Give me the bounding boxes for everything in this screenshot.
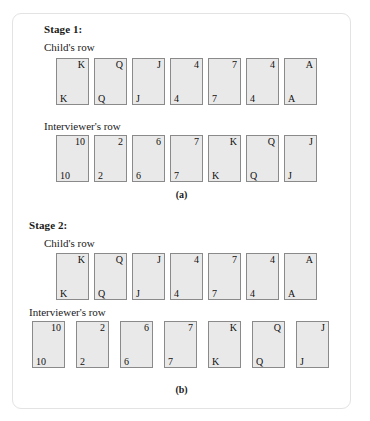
- card-rank-bottom: K: [60, 288, 67, 299]
- card[interactable]: J J: [284, 135, 317, 182]
- card-rank-bottom: 7: [212, 288, 217, 299]
- card-rank-bottom: Q: [98, 93, 105, 104]
- card-rank-bottom: 4: [250, 288, 255, 299]
- card-rank-top: K: [230, 136, 237, 147]
- card-rank-bottom: 4: [174, 288, 179, 299]
- card-rank-top: Q: [116, 254, 123, 265]
- card[interactable]: 2 2: [76, 321, 109, 368]
- child-row-cards-1: K K Q Q J J 4 4 7 7 4 4: [56, 58, 317, 105]
- card-rank-bottom: 2: [98, 170, 103, 181]
- card[interactable]: A A: [284, 58, 317, 105]
- card-rank-top: 10: [51, 322, 61, 333]
- card[interactable]: J J: [296, 321, 329, 368]
- card-rank-top: Q: [116, 59, 123, 70]
- interviewer-row-label-1: Interviewer's row: [44, 120, 121, 132]
- card[interactable]: J J: [132, 58, 165, 105]
- card[interactable]: 7 7: [208, 58, 241, 105]
- card[interactable]: 4 4: [170, 253, 203, 300]
- card-rank-bottom: A: [288, 93, 295, 104]
- card[interactable]: K K: [56, 58, 89, 105]
- card[interactable]: Q Q: [94, 253, 127, 300]
- card-rank-top: K: [230, 322, 237, 333]
- card-rank-top: K: [78, 59, 85, 70]
- card[interactable]: K K: [208, 321, 241, 368]
- card-rank-bottom: 6: [124, 356, 129, 367]
- card[interactable]: 7 7: [208, 253, 241, 300]
- card[interactable]: A A: [284, 253, 317, 300]
- card-rank-bottom: J: [136, 93, 140, 104]
- card-rank-bottom: Q: [250, 170, 257, 181]
- card-rank-top: J: [309, 136, 313, 147]
- card[interactable]: 2 2: [94, 135, 127, 182]
- card-rank-top: 7: [232, 254, 237, 265]
- panel-caption-a: (a): [13, 189, 350, 200]
- interviewer-row-cards-2: 10 10 2 2 6 6 7 7 K K Q Q: [32, 321, 329, 368]
- card-rank-top: 2: [100, 322, 105, 333]
- card-rank-bottom: J: [300, 356, 304, 367]
- card-rank-top: Q: [268, 136, 275, 147]
- card-rank-top: 6: [156, 136, 161, 147]
- card[interactable]: 6 6: [120, 321, 153, 368]
- card[interactable]: 7 7: [164, 321, 197, 368]
- card-rank-bottom: J: [288, 170, 292, 181]
- card-rank-bottom: 4: [174, 93, 179, 104]
- card[interactable]: K K: [56, 253, 89, 300]
- card-rank-top: J: [157, 59, 161, 70]
- card-rank-top: 4: [270, 59, 275, 70]
- card-rank-bottom: Q: [256, 356, 263, 367]
- card[interactable]: J J: [132, 253, 165, 300]
- card-rank-bottom: 7: [212, 93, 217, 104]
- card-rank-bottom: 7: [174, 170, 179, 181]
- card-rank-bottom: K: [212, 356, 219, 367]
- card[interactable]: Q Q: [252, 321, 285, 368]
- card-rank-top: 7: [188, 322, 193, 333]
- card-rank-top: J: [157, 254, 161, 265]
- card-rank-top: 4: [270, 254, 275, 265]
- interviewer-row-label-2: Interviewer's row: [29, 306, 106, 318]
- card[interactable]: 4 4: [170, 58, 203, 105]
- card-rank-bottom: 6: [136, 170, 141, 181]
- child-row-label-1: Child's row: [44, 41, 95, 53]
- card[interactable]: Q Q: [246, 135, 279, 182]
- card-rank-top: J: [321, 322, 325, 333]
- card-rank-bottom: K: [60, 93, 67, 104]
- card-rank-top: A: [306, 59, 313, 70]
- card-rank-top: 7: [194, 136, 199, 147]
- card-rank-bottom: 7: [168, 356, 173, 367]
- card[interactable]: 10 10: [56, 135, 89, 182]
- interviewer-row-cards-1: 10 10 2 2 6 6 7 7 K K Q Q: [56, 135, 317, 182]
- card-rank-top: 6: [144, 322, 149, 333]
- card-rank-top: 10: [75, 136, 85, 147]
- card-rank-top: K: [78, 254, 85, 265]
- card-rank-bottom: A: [288, 288, 295, 299]
- figure-frame: Stage 1: Child's row K K Q Q J J 4 4 7 7: [12, 13, 351, 409]
- card-rank-top: 4: [194, 254, 199, 265]
- card[interactable]: 4 4: [246, 58, 279, 105]
- card-rank-bottom: 10: [36, 356, 46, 367]
- card-rank-bottom: J: [136, 288, 140, 299]
- card-rank-bottom: 4: [250, 93, 255, 104]
- card[interactable]: 7 7: [170, 135, 203, 182]
- card[interactable]: K K: [208, 135, 241, 182]
- panel-caption-b: (b): [13, 384, 350, 395]
- card[interactable]: 10 10: [32, 321, 65, 368]
- card[interactable]: 6 6: [132, 135, 165, 182]
- child-row-label-2: Child's row: [44, 237, 95, 249]
- card[interactable]: Q Q: [94, 58, 127, 105]
- card-rank-bottom: 2: [80, 356, 85, 367]
- card-rank-bottom: Q: [98, 288, 105, 299]
- card-rank-bottom: 10: [60, 170, 70, 181]
- card-rank-top: 4: [194, 59, 199, 70]
- card-rank-top: A: [306, 254, 313, 265]
- card-rank-bottom: K: [212, 170, 219, 181]
- card[interactable]: 4 4: [246, 253, 279, 300]
- child-row-cards-2: K K Q Q J J 4 4 7 7 4 4: [56, 253, 317, 300]
- stage-title-2: Stage 2:: [29, 219, 67, 231]
- stage-title-1: Stage 1:: [44, 23, 82, 35]
- card-rank-top: Q: [274, 322, 281, 333]
- card-rank-top: 2: [118, 136, 123, 147]
- card-rank-top: 7: [232, 59, 237, 70]
